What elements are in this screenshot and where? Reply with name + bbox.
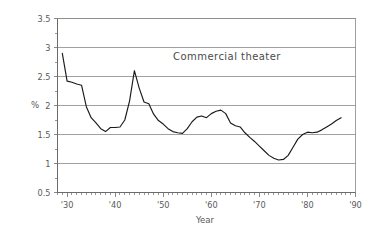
- y-tick-label: 3.5: [37, 14, 50, 24]
- y-tick-label: 0.5: [37, 188, 50, 198]
- x-tick-label: '50: [157, 200, 170, 210]
- gridlines: [58, 19, 356, 164]
- y-tick-label: 1: [45, 159, 50, 169]
- x-tick-label: '80: [301, 200, 314, 210]
- x-tick-label: '70: [253, 200, 266, 210]
- line-chart: 0.511.522.533.5 '30'40'50'60'70'80'90 % …: [0, 0, 374, 239]
- data-series-group: [62, 53, 341, 160]
- x-tick-label: '60: [205, 200, 218, 210]
- data-series-line: [62, 53, 341, 160]
- y-axis-tick-labels: 0.511.522.533.5: [37, 14, 50, 198]
- y-tick-label: 2: [45, 101, 50, 111]
- chart-container: 0.511.522.533.5 '30'40'50'60'70'80'90 % …: [0, 0, 374, 239]
- x-tick-label: '90: [349, 200, 362, 210]
- y-tick-label: 3: [45, 43, 50, 53]
- series-annotation-label: Commercial theater: [173, 51, 281, 62]
- y-axis-title: %: [31, 100, 39, 110]
- y-tick-label: 2.5: [37, 72, 50, 82]
- x-tick-label: '30: [61, 200, 74, 210]
- x-axis-title: Year: [195, 215, 215, 225]
- y-tick-label: 1.5: [37, 130, 50, 140]
- x-axis-ticks: [58, 193, 356, 197]
- y-axis-ticks: [54, 19, 58, 193]
- x-axis-tick-labels: '30'40'50'60'70'80'90: [61, 200, 362, 210]
- x-tick-label: '40: [109, 200, 122, 210]
